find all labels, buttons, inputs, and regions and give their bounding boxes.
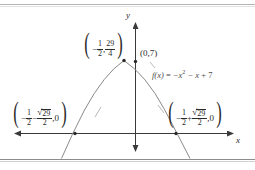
right-root-radical-fraction: 292: [192, 109, 207, 128]
right-root-label: (−12+292,0): [166, 96, 224, 129]
right-root-radicand: 29: [196, 109, 206, 119]
vertex-x-fraction: 12: [97, 40, 103, 58]
x-axis-label: x: [236, 136, 240, 145]
left-root-point: [73, 132, 76, 135]
left-root-label: (−12−292,0): [11, 96, 69, 129]
plot-canvas: [0, 0, 255, 170]
sqrt-icon: 29: [193, 109, 206, 119]
right-root-zero: ,0: [207, 113, 214, 123]
vertex-y-numerator: 29: [105, 40, 115, 49]
left-root-radical-fraction: 292: [37, 109, 52, 128]
vertex-x-numerator: 1: [97, 40, 103, 49]
function-term3: + 7: [201, 70, 212, 80]
vertex-open-paren: (: [84, 28, 90, 58]
function-term2: − x: [187, 70, 199, 80]
vertex-point-label: (−12,294): [82, 27, 125, 59]
left-root-half-numerator: 1: [26, 109, 32, 118]
function-lhs: f(x): [152, 70, 164, 80]
right-root-point: [174, 132, 177, 135]
sqrt-icon: 29: [38, 109, 51, 119]
vertex-close-paren: ): [118, 28, 124, 58]
y-intercept-point: [134, 60, 137, 63]
left-root-zero: ,0: [52, 113, 59, 123]
y-axis-label: y: [126, 11, 130, 20]
vertex-y-denominator: 4: [105, 49, 115, 59]
left-root-radical-denominator: 2: [37, 118, 52, 128]
left-root-half-denominator: 2: [26, 118, 32, 128]
right-root-radical-numerator: 29: [192, 109, 207, 119]
right-root-open-paren: (: [168, 97, 174, 127]
y-intercept-label: (0,7): [140, 49, 157, 58]
function-equals: =: [166, 70, 171, 80]
right-root-half-denominator: 2: [181, 118, 187, 128]
left-root-radicand: 29: [41, 109, 51, 119]
vertex-x-denominator: 2: [97, 49, 103, 59]
parabola-figure: (−12,294) (0,7) f(x) = −x2 − x + 7 (−12−…: [0, 0, 255, 170]
right-root-half-numerator: 1: [181, 109, 187, 118]
function-exponent: 2: [182, 69, 185, 75]
vertex-y-fraction: 294: [105, 40, 115, 58]
left-root-radical-numerator: 29: [37, 109, 52, 119]
function-term1: −x: [173, 70, 183, 80]
right-root-close-paren: ): [216, 97, 222, 127]
right-root-radical-denominator: 2: [192, 118, 207, 128]
left-root-half-fraction: 12: [26, 109, 32, 127]
left-root-leader: [95, 107, 101, 117]
vertex-point: [122, 59, 125, 62]
right-root-half-fraction: 12: [181, 109, 187, 127]
left-root-close-paren: ): [61, 97, 67, 127]
left-root-open-paren: (: [13, 97, 19, 127]
function-equation-label: f(x) = −x2 − x + 7: [152, 69, 212, 79]
function-leader: [150, 62, 155, 68]
